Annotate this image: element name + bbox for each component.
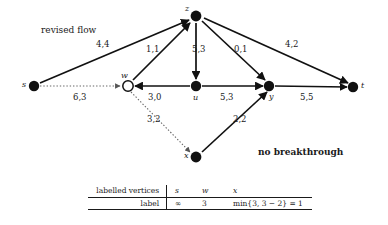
table-cell-vertex-s: s (168, 185, 195, 197)
table-cell-label-w: 3 (195, 197, 226, 210)
node-t (348, 82, 358, 92)
edge-z-t (204, 18, 348, 83)
edge-label-u-y: 5,3 (220, 93, 234, 102)
node-s (29, 81, 39, 91)
edge-label-s-z: 4,4 (96, 40, 110, 49)
node-label-x: x (184, 152, 189, 160)
table-row-vertices: labelled vertices s w x (88, 185, 312, 197)
annotation-no-breakthrough: no breakthrough (258, 148, 343, 157)
edge-label-z-y: 0,1 (234, 45, 248, 54)
node-w (123, 81, 133, 91)
edge-label-w-x: 3,2 (147, 115, 161, 124)
table-header-labelled-vertices: labelled vertices (88, 185, 167, 197)
node-u (191, 81, 201, 91)
edge-label-x-y: 2,2 (233, 115, 247, 124)
edge-label-u-w: 3,0 (148, 93, 162, 102)
node-label-y: y (269, 93, 274, 101)
edge-label-s-w: 6,3 (73, 93, 87, 102)
node-z (191, 11, 202, 22)
labelled-vertices-table: labelled vertices s w x label ∞ 3 min{3,… (88, 185, 312, 210)
edge-y-t (275, 86, 347, 87)
node-y (264, 81, 274, 91)
table-cell-label-s: ∞ (168, 197, 195, 210)
table-row-labels: label ∞ 3 min{3, 3 − 2} = 1 (88, 197, 312, 210)
node-label-t: t (361, 82, 364, 90)
edge-label-z-t: 4,2 (285, 40, 299, 49)
edge-label-y-t: 5,5 (300, 93, 314, 102)
figure-network-flow-diagram: s w z u y t x 4,4 6,3 1,1 5,3 0,1 4,2 3,… (0, 0, 388, 225)
node-label-w: w (121, 72, 128, 80)
table-cell-vertex-x: x (226, 185, 312, 197)
node-label-z: z (185, 5, 189, 13)
node-label-s: s (22, 81, 26, 89)
table-header-label: label (88, 197, 167, 210)
edge-label-z-u: 5,3 (192, 45, 206, 54)
annotation-revised-flow: revised flow (41, 26, 96, 35)
node-x (191, 152, 202, 163)
edge-label-w-z: 1,1 (146, 45, 160, 54)
node-label-u: u (193, 94, 198, 102)
table-cell-label-x: min{3, 3 − 2} = 1 (226, 197, 312, 210)
table-cell-vertex-w: w (195, 185, 226, 197)
